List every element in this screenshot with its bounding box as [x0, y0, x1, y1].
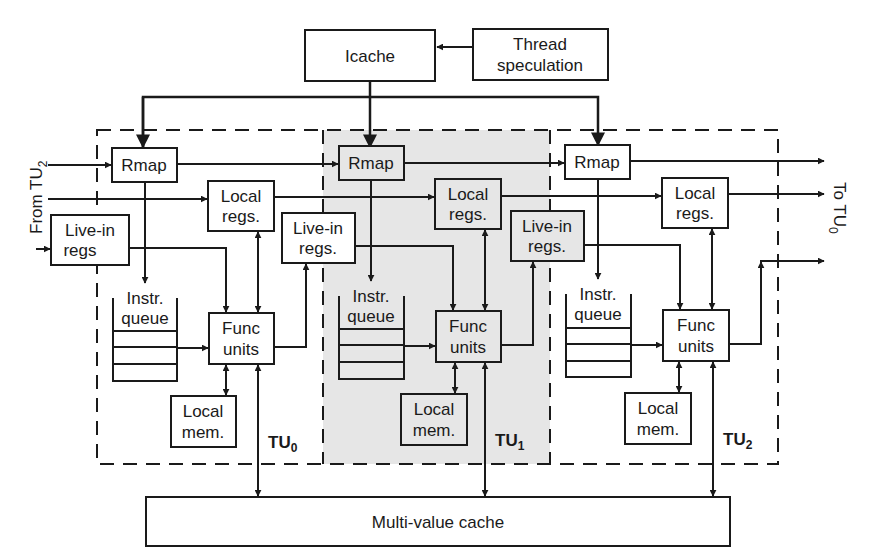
tu1-local-regs: Local	[448, 185, 489, 204]
tu0-local-regs-2: regs.	[222, 207, 260, 226]
tu1-local-regs-2: regs.	[449, 205, 487, 224]
tu0-rmap: Rmap	[121, 156, 166, 175]
tu2-instr-queue-2: queue	[574, 305, 621, 324]
tu2-local-mem: Local	[638, 399, 679, 418]
tu2-local-regs-2: regs.	[676, 204, 714, 223]
tu1-local-mem-2: mem.	[413, 421, 456, 440]
tu0-instr-queue: Instr.	[127, 289, 164, 308]
tu1-func-units-2: units	[450, 338, 486, 357]
tu2-func-units-2: units	[678, 337, 714, 356]
tu2-local-regs: Local	[675, 184, 716, 203]
tu0-local-mem: Local	[183, 402, 224, 421]
tu0-label: TU0	[268, 433, 298, 455]
to-tu0-label: To TU0	[826, 182, 849, 234]
tu1-rmap: Rmap	[348, 154, 393, 173]
tu2-live-in-2: regs.	[528, 237, 566, 256]
tu0-live-in-2: regs	[63, 241, 96, 260]
multi-value-cache-label: Multi-value cache	[372, 513, 504, 532]
tu0-func-units-2: units	[223, 340, 259, 359]
tu1-live-in: Live-in	[293, 219, 343, 238]
tu2-func-units: Func	[677, 316, 715, 335]
thread-spec-label-1: Thread	[513, 35, 567, 54]
tu1-instr-queue: Instr.	[353, 287, 390, 306]
tu0-local-mem-2: mem.	[182, 423, 225, 442]
from-tu2-label: From TU2	[27, 160, 50, 234]
tu2-rmap: Rmap	[574, 153, 619, 172]
thread-spec-label-2: speculation	[497, 56, 583, 75]
tu0-instr-queue-2: queue	[121, 309, 168, 328]
tu2-live-in: Live-in	[522, 217, 572, 236]
tu2-label: TU2	[723, 430, 753, 452]
tu0-live-in: Live-in	[65, 221, 115, 240]
icache-label: Icache	[345, 47, 395, 66]
tu0-local-regs: Local	[221, 187, 262, 206]
tu1-local-mem: Local	[414, 400, 455, 419]
tu2-instr-queue: Instr.	[580, 285, 617, 304]
tu0-func-units: Func	[222, 319, 260, 338]
tu1-live-in-2: regs.	[299, 239, 337, 258]
tu2-local-mem-2: mem.	[637, 420, 680, 439]
tu1-func-units: Func	[449, 317, 487, 336]
diagram-canvas: Icache Thread speculation From TU2 To TU…	[0, 0, 874, 558]
tu1-instr-queue-2: queue	[347, 307, 394, 326]
